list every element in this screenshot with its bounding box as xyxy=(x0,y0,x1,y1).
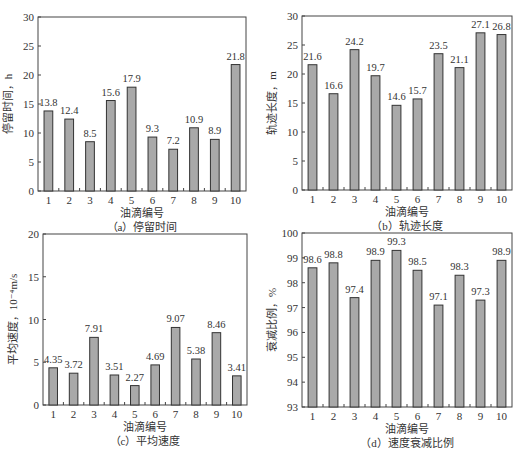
y-tick-label: 5 xyxy=(293,155,299,167)
y-axis-label: 衰减比例，% xyxy=(265,288,278,352)
x-tick-label: 1 xyxy=(50,408,56,420)
x-tick-label: 1 xyxy=(46,194,52,206)
bar xyxy=(231,65,240,191)
chart-caption: （d）速度衰减比例 xyxy=(360,436,454,449)
chart-c: 051015204.3513.7227.9133.5142.2754.6969.… xyxy=(6,228,247,447)
bar-value-label: 21.1 xyxy=(450,54,468,65)
x-tick-label: 2 xyxy=(331,193,337,205)
x-tick-label: 3 xyxy=(87,194,93,206)
x-axis-label: 油滴编号 xyxy=(120,206,164,219)
bar-value-label: 98.5 xyxy=(408,256,426,267)
x-tick-label: 4 xyxy=(108,194,114,206)
chart-a: 05101520253013.8112.428.5315.6417.959.36… xyxy=(1,11,246,233)
x-tick-label: 10 xyxy=(496,410,508,422)
bar xyxy=(151,365,160,405)
x-tick-label: 5 xyxy=(132,408,138,420)
bar xyxy=(86,142,95,191)
bar xyxy=(350,50,359,190)
x-tick-label: 3 xyxy=(91,408,97,420)
x-tick-label: 8 xyxy=(457,410,463,422)
bar xyxy=(169,149,178,191)
bar-value-label: 7.91 xyxy=(85,323,103,334)
bar xyxy=(44,111,53,191)
x-tick-label: 9 xyxy=(212,194,218,206)
bar-value-label: 9.3 xyxy=(146,123,159,134)
bar-value-label: 19.7 xyxy=(366,62,384,73)
bar-value-label: 24.2 xyxy=(345,36,363,47)
bar xyxy=(476,300,485,407)
y-tick-label: 5 xyxy=(29,156,35,168)
bar-value-label: 3.72 xyxy=(64,359,82,370)
y-tick-label: 10 xyxy=(28,314,40,326)
bar xyxy=(392,105,401,190)
x-tick-label: 9 xyxy=(478,193,484,205)
chart-d: 9394959697989910098.6198.8297.4398.9499.… xyxy=(265,227,512,449)
x-tick-label: 5 xyxy=(394,410,400,422)
x-tick-label: 10 xyxy=(230,194,242,206)
bar xyxy=(127,87,136,191)
y-tick-label: 25 xyxy=(23,40,35,52)
bar xyxy=(69,373,78,405)
bar xyxy=(233,376,242,405)
bar xyxy=(65,119,74,191)
x-tick-label: 3 xyxy=(352,193,358,205)
y-tick-label: 98 xyxy=(287,277,299,289)
y-axis-label: 平均速度，10⁻⁴m/s xyxy=(6,274,19,366)
y-tick-label: 30 xyxy=(287,10,299,22)
x-tick-label: 8 xyxy=(191,194,197,206)
bar xyxy=(171,327,180,405)
bar xyxy=(329,94,338,190)
bar-value-label: 4.35 xyxy=(44,354,62,365)
chart-b: 05101520253021.6116.6224.2319.7414.6515.… xyxy=(265,10,512,232)
bar xyxy=(148,137,157,191)
bar-value-label: 3.51 xyxy=(105,361,123,372)
bar xyxy=(413,99,422,190)
x-tick-label: 5 xyxy=(394,193,400,205)
x-tick-label: 7 xyxy=(173,408,179,420)
y-tick-label: 97 xyxy=(287,302,299,314)
bar-value-label: 15.6 xyxy=(102,87,120,98)
x-axis-label: 油滴编号 xyxy=(123,420,167,433)
bar xyxy=(106,101,115,191)
bar-value-label: 27.1 xyxy=(471,19,489,30)
y-tick-label: 0 xyxy=(29,185,35,197)
x-tick-label: 6 xyxy=(152,408,158,420)
bar xyxy=(476,33,485,190)
x-tick-label: 6 xyxy=(415,410,421,422)
x-tick-label: 6 xyxy=(150,194,156,206)
y-tick-label: 25 xyxy=(287,39,299,51)
x-tick-label: 10 xyxy=(496,193,508,205)
bar xyxy=(497,35,506,190)
y-tick-label: 94 xyxy=(287,376,299,388)
figure-svg: 05101520253013.8112.428.5315.6417.959.36… xyxy=(0,0,522,456)
bar-value-label: 2.27 xyxy=(126,372,144,383)
y-tick-label: 100 xyxy=(282,227,299,239)
y-tick-label: 15 xyxy=(28,271,40,283)
y-tick-label: 93 xyxy=(287,401,299,413)
x-tick-label: 9 xyxy=(478,410,484,422)
x-axis-label: 油滴编号 xyxy=(385,422,429,435)
bar-value-label: 8.9 xyxy=(208,125,221,136)
x-tick-label: 4 xyxy=(112,408,118,420)
bar xyxy=(371,260,380,407)
y-tick-label: 96 xyxy=(287,326,299,338)
bar xyxy=(455,275,464,407)
bar-value-label: 97.1 xyxy=(429,291,447,302)
y-tick-label: 20 xyxy=(287,68,299,80)
y-tick-label: 15 xyxy=(23,98,35,110)
x-tick-label: 6 xyxy=(415,193,421,205)
bar xyxy=(210,139,219,191)
bar xyxy=(329,263,338,407)
bar xyxy=(212,333,221,405)
x-tick-label: 8 xyxy=(457,193,463,205)
y-axis-label: 轨迹长度，m xyxy=(265,71,278,135)
x-tick-label: 2 xyxy=(66,194,72,206)
y-tick-label: 5 xyxy=(34,356,40,368)
chart-caption: （a）停留时间 xyxy=(107,220,178,233)
bar-value-label: 12.4 xyxy=(60,105,79,116)
bar-value-label: 17.9 xyxy=(122,73,140,84)
bar xyxy=(192,359,201,405)
bar xyxy=(413,270,422,407)
x-tick-label: 4 xyxy=(373,193,379,205)
bar xyxy=(455,68,464,190)
